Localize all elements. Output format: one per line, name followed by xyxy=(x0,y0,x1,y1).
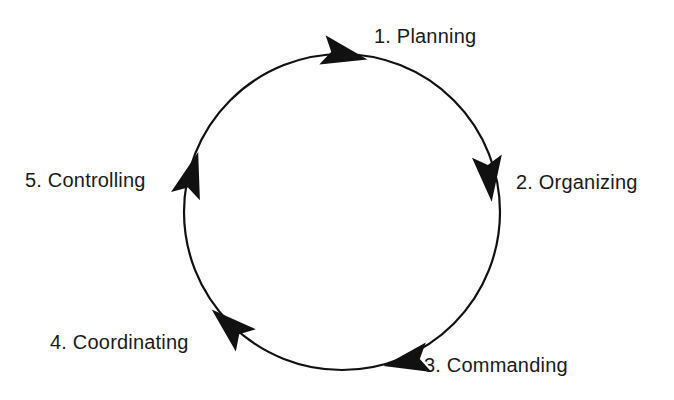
stage-label-planning: 1. Planning xyxy=(374,26,476,46)
arrowhead-coordinating xyxy=(202,298,256,351)
stage-label-commanding: 3. Commanding xyxy=(424,355,568,375)
arrowhead-controlling xyxy=(171,148,213,200)
stage-label-controlling: 5. Controlling xyxy=(25,170,146,190)
arrowhead-organizing xyxy=(472,155,507,204)
diagram-canvas: 1. Planning 2. Organizing 3. Commanding … xyxy=(0,0,674,400)
stage-label-coordinating: 4. Coordinating xyxy=(50,332,189,352)
stage-label-organizing: 2. Organizing xyxy=(516,172,638,192)
